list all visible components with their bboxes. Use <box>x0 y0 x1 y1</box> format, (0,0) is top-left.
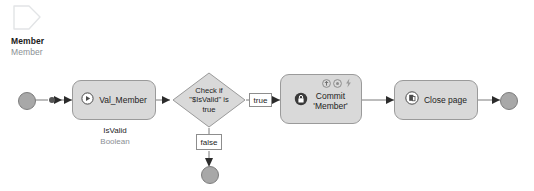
action-node-val-member[interactable]: Val_Member <box>72 80 156 120</box>
page-shape-icon <box>12 4 42 32</box>
play-circle-icon <box>81 91 94 109</box>
diagram-canvas: Member Member <box>0 0 534 191</box>
entity-name: Member <box>11 36 44 46</box>
action-caption-name: IsValid <box>78 126 152 135</box>
commit-line-2: 'Member' <box>313 101 347 111</box>
gateway-line-2: "$IsValid" is <box>189 95 228 104</box>
arrow-up-circle-icon[interactable] <box>322 79 331 88</box>
gateway-line-3: true <box>202 105 215 114</box>
commit-line-1: Commit <box>316 91 345 101</box>
commit-node-label: Commit 'Member' <box>313 91 347 111</box>
connector-dot[interactable] <box>49 97 55 103</box>
end-event-false[interactable] <box>201 166 219 184</box>
commit-badge-row <box>322 78 353 88</box>
edge-label-false[interactable]: false <box>196 134 222 150</box>
action-node-label: Val_Member <box>99 95 147 105</box>
edge-label-false-text: false <box>201 138 218 147</box>
edge-label-true[interactable]: true <box>249 93 272 107</box>
gateway-line-1: Check if <box>195 86 222 95</box>
edge-label-true-text: true <box>254 96 268 105</box>
action-caption-type: Boolean <box>78 137 152 146</box>
entity-type: Member <box>11 47 43 57</box>
close-page-label: Close page <box>424 95 467 105</box>
end-event-right[interactable] <box>500 92 518 110</box>
decision-gateway[interactable]: Check if "$IsValid" is true <box>172 72 246 128</box>
close-page-node[interactable]: Close page <box>394 80 478 120</box>
refresh-circle-icon[interactable] <box>333 79 342 88</box>
close-page-icon <box>405 91 419 109</box>
commit-lock-icon <box>294 92 308 110</box>
lightning-bolt-icon[interactable] <box>344 78 353 88</box>
start-event[interactable] <box>18 92 36 110</box>
